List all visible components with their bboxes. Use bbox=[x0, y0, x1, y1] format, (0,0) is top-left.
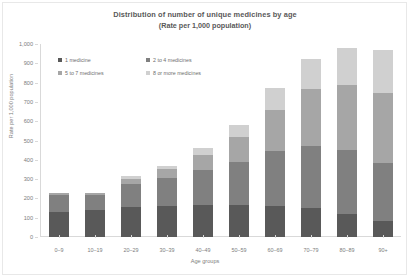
x-axis-tick-mark bbox=[167, 235, 168, 238]
bar-segment[interactable] bbox=[301, 146, 321, 208]
x-axis-tick-label: 0–9 bbox=[55, 247, 64, 253]
bar-segment[interactable] bbox=[265, 151, 285, 206]
bar-group[interactable] bbox=[41, 44, 77, 237]
y-axis-tick-mark bbox=[35, 218, 38, 219]
bar-segment[interactable] bbox=[229, 137, 249, 162]
bar-segment[interactable] bbox=[157, 169, 177, 178]
y-axis-tick-mark bbox=[35, 198, 38, 199]
bar-segment[interactable] bbox=[193, 205, 213, 237]
y-axis-tick-mark bbox=[35, 44, 38, 45]
y-axis-tick-label: 800 bbox=[24, 80, 33, 86]
bar-segment[interactable] bbox=[373, 93, 393, 162]
y-axis-tick-mark bbox=[35, 141, 38, 142]
bars-layer bbox=[41, 44, 401, 237]
bar-group[interactable] bbox=[77, 44, 113, 237]
x-axis-tick: 0–9 bbox=[41, 238, 77, 256]
bar-segment[interactable] bbox=[49, 212, 69, 237]
bar-segment[interactable] bbox=[337, 150, 357, 214]
x-axis: 0–910–1920–2930–3940–4950–5960–6970–7980… bbox=[41, 238, 401, 256]
bar-segment[interactable] bbox=[301, 89, 321, 146]
bar-stack[interactable] bbox=[373, 50, 393, 237]
x-axis-tick: 50–59 bbox=[221, 238, 257, 256]
chart-title: Distribution of number of unique medicin… bbox=[0, 9, 410, 20]
x-axis-tick-mark bbox=[95, 235, 96, 238]
y-axis-tick-label: 900 bbox=[24, 60, 33, 66]
x-axis-tick: 10–19 bbox=[77, 238, 113, 256]
bar-segment[interactable] bbox=[229, 205, 249, 237]
bar-segment[interactable] bbox=[373, 50, 393, 93]
bar-segment[interactable] bbox=[337, 214, 357, 237]
bar-segment[interactable] bbox=[337, 85, 357, 151]
bar-segment[interactable] bbox=[229, 162, 249, 205]
x-axis-tick-label: 40–49 bbox=[196, 247, 211, 253]
x-axis-tick-mark bbox=[347, 235, 348, 238]
bar-stack[interactable] bbox=[121, 176, 141, 237]
x-axis-tick-mark bbox=[275, 235, 276, 238]
bar-segment[interactable] bbox=[85, 195, 105, 210]
x-axis-tick: 30–39 bbox=[149, 238, 185, 256]
y-axis-tick-label: 300 bbox=[24, 176, 33, 182]
bar-segment[interactable] bbox=[229, 125, 249, 137]
bar-segment[interactable] bbox=[121, 184, 141, 207]
bar-segment[interactable] bbox=[193, 148, 213, 155]
y-axis-tick-label: 600 bbox=[24, 118, 33, 124]
bar-group[interactable] bbox=[149, 44, 185, 237]
y-axis-tick-mark bbox=[35, 121, 38, 122]
bar-segment[interactable] bbox=[373, 163, 393, 221]
bar-segment[interactable] bbox=[49, 195, 69, 212]
bar-segment[interactable] bbox=[85, 210, 105, 237]
bar-group[interactable] bbox=[185, 44, 221, 237]
bar-segment[interactable] bbox=[121, 207, 141, 237]
bar-stack[interactable] bbox=[157, 166, 177, 237]
x-axis-tick: 40–49 bbox=[185, 238, 221, 256]
y-axis-tick-mark bbox=[35, 83, 38, 84]
bar-segment[interactable] bbox=[157, 206, 177, 237]
x-axis-tick-mark bbox=[239, 235, 240, 238]
y-axis-tick-mark bbox=[35, 237, 38, 238]
bar-segment[interactable] bbox=[157, 178, 177, 206]
y-axis-tick-label: 1,000 bbox=[19, 41, 33, 47]
bar-group[interactable] bbox=[257, 44, 293, 237]
bar-stack[interactable] bbox=[49, 193, 69, 237]
bar-segment[interactable] bbox=[265, 88, 285, 109]
bar-group[interactable] bbox=[113, 44, 149, 237]
x-axis-tick: 80–89 bbox=[329, 238, 365, 256]
bar-group[interactable] bbox=[221, 44, 257, 237]
x-axis-tick-label: 70–79 bbox=[304, 247, 319, 253]
bar-segment[interactable] bbox=[265, 110, 285, 151]
bar-segment[interactable] bbox=[193, 170, 213, 205]
bar-stack[interactable] bbox=[193, 148, 213, 237]
x-axis-tick-mark bbox=[311, 235, 312, 238]
chart-container: Distribution of number of unique medicin… bbox=[0, 0, 410, 278]
x-axis-tick: 60–69 bbox=[257, 238, 293, 256]
bar-segment[interactable] bbox=[193, 155, 213, 170]
x-axis-tick-mark bbox=[203, 235, 204, 238]
x-axis-tick: 90+ bbox=[365, 238, 401, 256]
bar-stack[interactable] bbox=[229, 125, 249, 237]
bar-group[interactable] bbox=[293, 44, 329, 237]
bar-stack[interactable] bbox=[85, 193, 105, 237]
bar-segment[interactable] bbox=[337, 48, 357, 85]
x-axis-tick: 70–79 bbox=[293, 238, 329, 256]
y-axis-tick-mark bbox=[35, 160, 38, 161]
bar-stack[interactable] bbox=[265, 88, 285, 237]
bar-stack[interactable] bbox=[301, 59, 321, 237]
y-axis-tick-label: 100 bbox=[24, 215, 33, 221]
x-axis-tick-mark bbox=[59, 235, 60, 238]
y-axis-tick-mark bbox=[35, 63, 38, 64]
title-block: Distribution of number of unique medicin… bbox=[0, 9, 410, 31]
bar-group[interactable] bbox=[329, 44, 365, 237]
y-axis: 01002003004005006007008009001,000 bbox=[0, 44, 38, 237]
x-axis-tick-label: 30–39 bbox=[160, 247, 175, 253]
bar-group[interactable] bbox=[365, 44, 401, 237]
y-axis-tick-mark bbox=[35, 102, 38, 103]
bar-stack[interactable] bbox=[337, 48, 357, 237]
bar-segment[interactable] bbox=[301, 59, 321, 90]
x-axis-tick-mark bbox=[131, 235, 132, 238]
y-axis-tick-mark bbox=[35, 179, 38, 180]
x-axis-tick: 20–29 bbox=[113, 238, 149, 256]
bar-segment[interactable] bbox=[301, 208, 321, 237]
y-axis-tick-label: 500 bbox=[24, 138, 33, 144]
bar-segment[interactable] bbox=[265, 206, 285, 237]
y-axis-title: Rate per 1,000 population bbox=[8, 56, 14, 156]
